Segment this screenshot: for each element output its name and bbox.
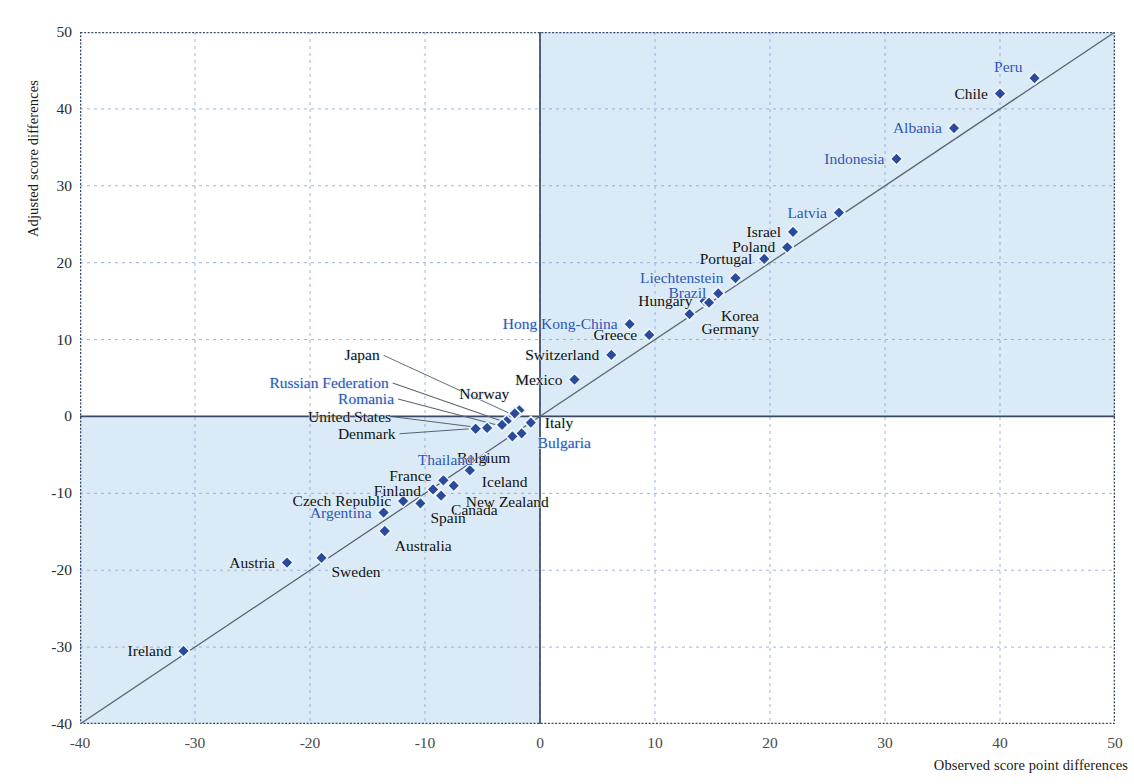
data-point-label: Ireland [128,643,172,659]
data-point-label: Portugal [700,251,753,267]
data-point-label: Germany [702,321,760,337]
data-point-label: Mexico [515,372,562,388]
data-point-label: Denmark [338,426,396,442]
data-point-label: Bulgaria [538,436,591,452]
x-tick-label: -20 [300,734,321,752]
y-tick-label: 20 [20,254,72,272]
data-point-label: Italy [545,415,573,431]
scatter-chart: Adjusted score differences Observed scor… [0,0,1134,784]
data-point-label: Albania [893,120,942,136]
data-point-label: Chile [954,86,988,102]
data-point-label: Iceland [482,475,528,491]
data-point-label: Hong Kong-China [503,316,618,332]
data-point-label: France [389,469,431,485]
data-point-label: Australia [395,538,452,554]
y-tick-label: -40 [20,715,72,733]
y-tick-label: 10 [20,331,72,349]
x-axis-tick-labels: -40-30-20-1001020304050 [0,734,1134,768]
y-tick-label: -10 [20,484,72,502]
data-point-label: United States [308,409,391,425]
plot-area: PeruChileAlbaniaIndonesiaLatviaIsraelPol… [80,32,1115,724]
data-point-label: Indonesia [824,151,884,167]
x-tick-label: 20 [762,734,778,752]
x-tick-label: 0 [536,734,544,752]
data-point-label: Romania [338,391,394,407]
data-point-label: Sweden [332,564,381,580]
data-point-label: Hungary [638,293,692,309]
y-tick-label: 0 [20,407,72,425]
x-tick-label: 30 [877,734,893,752]
data-point-label: Israel [747,224,781,240]
data-point-label: Japan [344,348,379,364]
y-tick-label: 30 [20,177,72,195]
plot-graphics [80,32,1115,724]
x-tick-label: -40 [70,734,91,752]
data-point-label: Switzerland [525,347,599,363]
data-point-label: Argentina [310,505,372,521]
data-point-label: Austria [229,555,275,571]
y-tick-label: 40 [20,100,72,118]
y-tick-label: -30 [20,638,72,656]
data-point-label: Latvia [787,205,827,221]
x-tick-label: 10 [647,734,663,752]
y-axis-tick-labels: -40-30-20-1001020304050 [0,0,72,784]
x-tick-label: 50 [1107,734,1123,752]
x-tick-label: -10 [415,734,436,752]
data-point-label: Russian Federation [269,375,388,391]
data-point-label: Thailand [418,452,473,468]
data-point-label: Norway [459,387,509,403]
data-point-label: Liechtenstein [640,270,724,286]
data-point-label: Peru [994,59,1022,75]
x-tick-label: -30 [185,734,206,752]
y-tick-label: -20 [20,561,72,579]
y-tick-label: 50 [20,23,72,41]
data-point-label: Spain [430,511,465,527]
x-tick-label: 40 [992,734,1008,752]
